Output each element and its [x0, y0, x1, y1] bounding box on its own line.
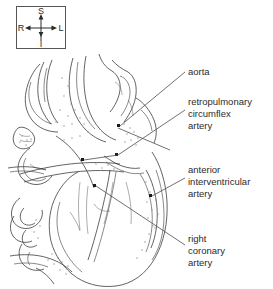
compass-label-left: L [58, 23, 63, 33]
svc-outline [38, 62, 51, 124]
label-retro-line-1: retropulmonary [188, 96, 252, 108]
fiber-strand-1 [79, 182, 81, 230]
compass-graphic: S I R L [17, 7, 65, 48]
orientation-compass: S I R L [16, 6, 66, 49]
lower-left-lobe-1 [11, 198, 42, 229]
lower-left-lobe-2-inner [22, 230, 37, 247]
pulmonary-trunk-outline-2 [84, 56, 116, 140]
heart-line-art [0, 52, 190, 289]
left-ventricle-outline [49, 172, 78, 236]
ventricle-upper-left-border [56, 136, 94, 188]
aiv-artery-inner [104, 182, 113, 224]
compass-label-inferior: I [40, 39, 43, 48]
left-ventricle-inner [57, 202, 82, 272]
label-retro-line-2: circumflex [188, 108, 252, 120]
vessel-nodule-left [13, 127, 34, 149]
label-aorta-line-1: aorta [188, 66, 210, 78]
label-retro-line-3: artery [188, 120, 252, 132]
right-coronary-artery-path-2 [140, 174, 152, 252]
compass-label-right: R [18, 23, 25, 33]
lower-left-lobe-3 [19, 244, 44, 270]
arrow-left [52, 26, 58, 31]
fiber-strand-3 [126, 182, 131, 224]
label-ant-line-2: interventricular [188, 176, 250, 188]
right-ventricle-inner [152, 170, 164, 260]
label-aorta: aorta [188, 66, 210, 78]
lower-left-lobe-1-inner [20, 208, 35, 225]
label-anterior-interventricular-artery: anterior interventricular artery [188, 164, 250, 200]
arrow-right [25, 26, 31, 31]
figure-canvas: S I R L [0, 0, 273, 289]
label-rca-line-3: artery [188, 257, 225, 269]
circumflex-artery-path [104, 156, 140, 168]
fiber-strand-2 [87, 186, 89, 234]
aorta-detail [115, 82, 122, 95]
cardiac-apex-outline [50, 236, 116, 287]
pulmonary-inner-line [77, 62, 95, 129]
pericardial-reflection-2 [14, 263, 48, 267]
compass-label-superior: S [38, 7, 44, 16]
aorta-inner-edge [120, 76, 130, 116]
left-lobe-outline [25, 64, 58, 132]
slender-vessel-left [8, 167, 46, 170]
label-rca-line-1: right [188, 233, 225, 245]
label-ant-line-1: anterior [188, 164, 250, 176]
label-right-coronary-artery: right coronary artery [188, 233, 225, 269]
svc-outline-2 [47, 60, 58, 123]
arrow-inferior [39, 32, 44, 37]
aorta-outer-edge [112, 60, 136, 122]
heart-illustration [0, 52, 190, 289]
left-atrium-outline [136, 98, 156, 143]
label-retropulmonary-circumflex-artery: retropulmonary circumflex artery [188, 96, 252, 132]
label-ant-line-3: artery [188, 188, 250, 200]
label-rca-line-2: coronary [188, 245, 225, 257]
